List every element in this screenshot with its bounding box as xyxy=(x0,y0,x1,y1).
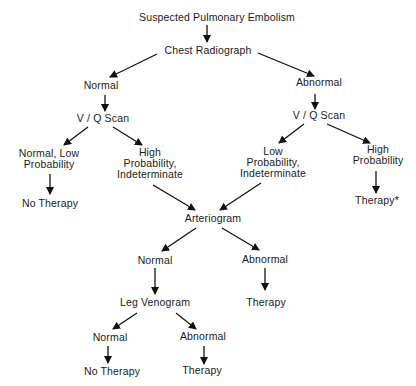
arrow-vq_right-to-high_prob xyxy=(327,124,370,143)
node-label: V / Q Scan xyxy=(77,113,129,124)
arrow-chest-to-abnormal1 xyxy=(258,53,314,76)
node-therapy-3: Therapy xyxy=(182,365,222,376)
node-label-line: Probability xyxy=(19,159,80,170)
node-label-line: Indeterminate xyxy=(117,169,183,180)
node-label: No Therapy xyxy=(22,198,78,209)
node-vq-scan-left: V / Q Scan xyxy=(77,113,129,124)
arrow-low_indet-to-arteriogram xyxy=(220,183,261,210)
node-label: Abnormal xyxy=(296,77,342,88)
node-suspected-pe: Suspected Pulmonary Embolism xyxy=(139,12,295,23)
node-label: Normal xyxy=(138,255,173,266)
node-label: Abnormal xyxy=(242,254,288,265)
node-arteriogram: Arteriogram xyxy=(185,213,242,224)
node-leg-venogram: Leg Venogram xyxy=(120,297,190,308)
node-no-therapy-1: No Therapy xyxy=(22,198,78,209)
node-label: Arteriogram xyxy=(185,213,242,224)
node-chest-radiograph: Chest Radiograph xyxy=(164,45,251,56)
arrow-arteriogram-to-abnormal2 xyxy=(222,228,259,250)
arrow-leg_venogram-to-abnormal3 xyxy=(176,313,196,329)
node-label: Abnormal xyxy=(180,331,226,342)
node-label: Therapy* xyxy=(355,195,399,206)
node-radiograph-normal: Normal xyxy=(84,80,119,91)
node-high-probability-indeterminate: High Probability, Indeterminate xyxy=(117,147,183,180)
node-label-line: Indeterminate xyxy=(240,168,306,179)
node-low-probability-indeterminate: Low Probability, Indeterminate xyxy=(240,146,306,179)
arrow-leg_venogram-to-normal3 xyxy=(113,313,137,329)
arrow-chest-to-normal1 xyxy=(110,54,157,77)
node-arteriogram-normal: Normal xyxy=(138,255,173,266)
arrow-high_indet-to-arteriogram xyxy=(153,185,195,210)
node-therapy-asterisk: Therapy* xyxy=(355,195,399,206)
flowchart-edges xyxy=(0,0,416,386)
node-label: Normal xyxy=(84,80,119,91)
node-arteriogram-abnormal: Abnormal xyxy=(242,254,288,265)
arrow-vq_left-to-normal_low xyxy=(64,127,88,145)
node-label: Chest Radiograph xyxy=(164,45,251,56)
node-normal-low-probability: Normal, Low Probability xyxy=(19,148,80,170)
node-label: Normal xyxy=(93,332,128,343)
arrow-vq_right-to-low_indet xyxy=(279,124,304,143)
node-venogram-normal: Normal xyxy=(93,332,128,343)
arrow-arteriogram-to-normal2 xyxy=(162,228,196,251)
node-venogram-abnormal: Abnormal xyxy=(180,331,226,342)
node-no-therapy-2: No Therapy xyxy=(84,366,140,377)
node-label: Leg Venogram xyxy=(120,297,190,308)
pulmonary-embolism-flowchart: Suspected Pulmonary Embolism Chest Radio… xyxy=(0,0,416,386)
node-label-line: Probability xyxy=(353,155,404,166)
arrow-vq_left-to-high_indet xyxy=(113,127,142,145)
node-label: Therapy xyxy=(246,297,286,308)
node-radiograph-abnormal: Abnormal xyxy=(296,77,342,88)
node-label: Suspected Pulmonary Embolism xyxy=(139,12,295,23)
node-label: No Therapy xyxy=(84,366,140,377)
node-high-probability: High Probability xyxy=(353,144,404,166)
node-label: V / Q Scan xyxy=(293,110,345,121)
node-label: Therapy xyxy=(182,365,222,376)
node-vq-scan-right: V / Q Scan xyxy=(293,110,345,121)
node-therapy-2: Therapy xyxy=(246,297,286,308)
